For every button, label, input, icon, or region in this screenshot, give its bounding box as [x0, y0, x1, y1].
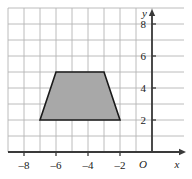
x-tick-label: –8 — [18, 159, 31, 171]
y-axis-arrow-icon — [149, 9, 155, 16]
x-tick-label: –4 — [82, 159, 95, 171]
y-tick-label: 2 — [141, 114, 147, 126]
shapes-layer — [40, 72, 120, 120]
coordinate-grid-figure: –8–6–4–22468yxO — [0, 0, 192, 179]
trapezoid — [40, 72, 120, 120]
x-axis-arrow-icon — [179, 149, 186, 155]
y-tick-label: 6 — [141, 50, 147, 62]
y-axis-label: y — [141, 7, 147, 19]
y-tick-label: 4 — [141, 82, 147, 94]
x-tick-label: –6 — [50, 159, 63, 171]
coordinate-plane-svg: –8–6–4–22468yxO — [0, 0, 192, 179]
x-tick-label: –2 — [114, 159, 126, 171]
x-axis-label: x — [174, 158, 180, 170]
origin-label: O — [139, 158, 147, 170]
y-tick-label: 8 — [141, 18, 147, 30]
